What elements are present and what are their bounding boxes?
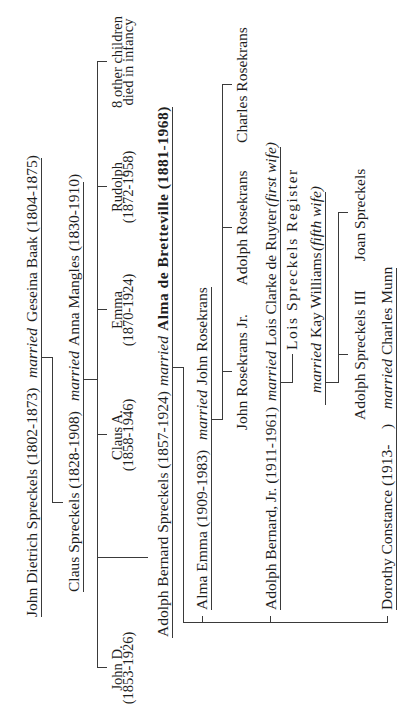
marriage-label: married (308, 343, 324, 393)
marriage-label: married (194, 390, 210, 440)
person-john-dietrich-spreckels: John Dietrich Spreckels (1802-1873) (24, 388, 40, 617)
spouse-note-fifth-wife: (fifth wife) (308, 186, 324, 251)
child-other-children: 8 other children died in infancy (112, 0, 134, 132)
child-note: died in infancy (123, 0, 134, 132)
person-john-rosekrans: John Rosekrans (194, 287, 210, 385)
person-charles-rosekrans: Charles Rosekrans (234, 5, 250, 165)
child-rudolph: Rudolph (1872-1958) (112, 117, 134, 257)
marriage-label: married (66, 351, 82, 401)
child-claus-a: Claus A. (1858-1946) (112, 365, 134, 505)
person-adolph-bernard-spreckels: Adolph Bernard Spreckels (1857-1924) (155, 391, 171, 637)
connector-gen1-to-claus (41, 358, 63, 503)
child-emma: Emma (1870-1924) (112, 240, 134, 380)
children-bracket-kay-williams (325, 213, 348, 383)
person-lois-clarke-de-ruyter: Lois Clarke de Ruyter (263, 209, 279, 346)
person-dorothy-constance: Dorothy Constance (1913- (379, 445, 395, 610)
person-lois-spreckels-register: Lois Spreckels Register (284, 168, 300, 350)
children-bracket-rosekrans (211, 85, 232, 420)
person-kay-williams: Kay Williams (308, 252, 324, 338)
person-anna-mangles: Anna Mangles (1830-1910) (66, 174, 82, 346)
family-tree-diagram: John Dietrich Spreckels (1802-1873) marr… (0, 0, 420, 719)
person-alma-emma: Alma Emma (1909-1983) (194, 450, 210, 610)
marriage-label: married (24, 328, 40, 378)
person-alma-de-bretteville: Alma de Bretteville (1881-1968) (155, 106, 171, 331)
person-adolph-spreckels-iii: Adolph Spreckels III (352, 275, 368, 435)
child-dates: (1858-1946) (123, 365, 134, 505)
spouse-note-first-wife: (first wife) (263, 142, 279, 207)
marriage-label: married (155, 336, 171, 386)
person-joan-spreckels: Joan Spreckels (352, 135, 368, 295)
person-charles-munn: Charles Munn (379, 267, 395, 355)
dates-close-paren: ) (379, 424, 395, 429)
marriage-label: married (263, 351, 279, 401)
person-geseina-baak: Geseina Baak (1804-1875) (24, 155, 40, 322)
person-adolph-bernard-jr: Adolph Bernard, Jr. (1911-1961) (263, 407, 279, 610)
person-john-rosekrans-jr: John Rosekrans Jr. (234, 292, 250, 452)
child-john-d: John D. (1853-1926) (112, 598, 134, 719)
child-dates: (1870-1924) (123, 240, 134, 380)
connector-lois-register (280, 354, 293, 383)
marriage-label: married (379, 359, 395, 409)
person-adolph-rosekrans: Adolph Rosekrans (234, 148, 250, 308)
person-claus-spreckels: Claus Spreckels (1828-1908) (66, 411, 82, 592)
child-dates: (1853-1926) (123, 598, 134, 719)
child-dates: (1872-1958) (123, 117, 134, 257)
